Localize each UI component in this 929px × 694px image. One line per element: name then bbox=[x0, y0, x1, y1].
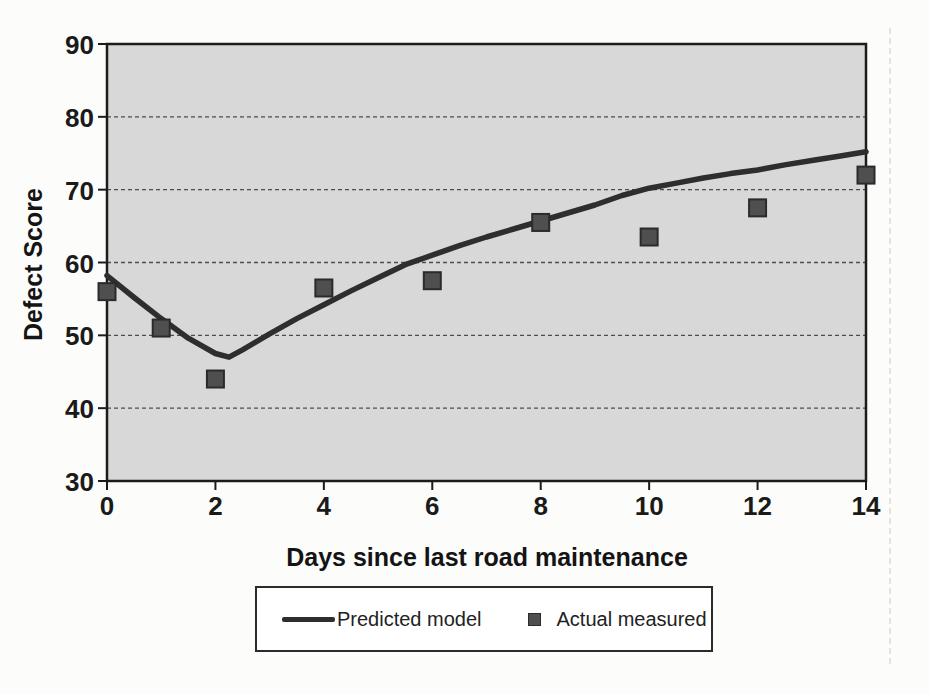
actual-measured-point bbox=[424, 272, 441, 289]
actual-measured-point bbox=[315, 279, 332, 296]
actual-measured-point bbox=[749, 199, 766, 216]
legend-item-actual-measured: Actual measured bbox=[528, 608, 707, 631]
defect-score-chart: 30405060708090 02468101214 Defect Score … bbox=[0, 0, 929, 694]
actual-measured-point bbox=[532, 214, 549, 231]
square-marker-icon bbox=[528, 613, 541, 626]
legend-item-predicted-model: Predicted model bbox=[282, 608, 482, 631]
legend-label-predicted-model: Predicted model bbox=[337, 608, 482, 631]
line-swatch-icon bbox=[282, 617, 335, 622]
actual-measured-point bbox=[99, 283, 116, 300]
actual-measured-point bbox=[641, 229, 658, 246]
actual-measured-point bbox=[858, 167, 875, 184]
actual-measured-point bbox=[153, 320, 170, 337]
legend-label-actual-measured: Actual measured bbox=[557, 608, 707, 631]
actual-measured-point bbox=[207, 371, 224, 388]
legend: Predicted model Actual measured bbox=[255, 586, 713, 652]
